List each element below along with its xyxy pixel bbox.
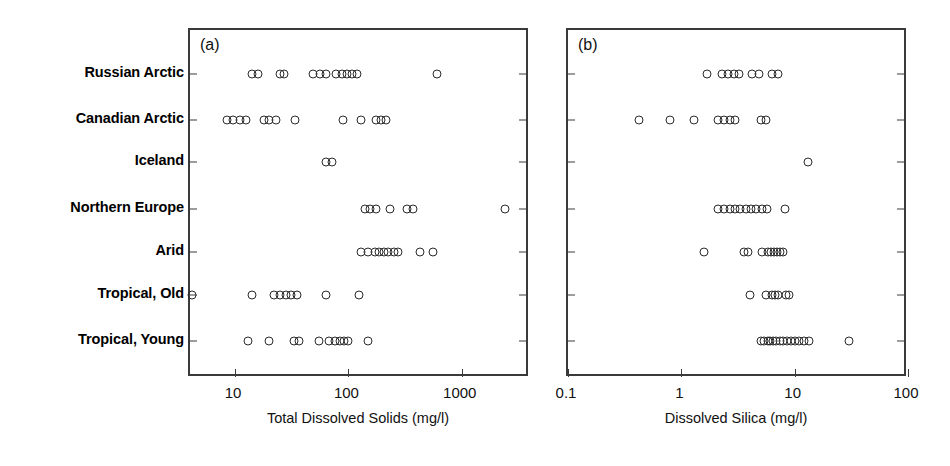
y-tick-left-6 [190, 341, 197, 342]
y-tick-right-6 [897, 341, 904, 342]
x-tick-label-1-1: 1 [675, 384, 683, 401]
data-point [355, 291, 364, 300]
y-tick-right-4 [897, 252, 904, 253]
data-point [432, 70, 441, 79]
data-point [247, 291, 256, 300]
data-point [744, 248, 753, 257]
data-point [321, 291, 330, 300]
panel-a-tag: (a) [200, 36, 220, 54]
y-tick-right-3 [897, 209, 904, 210]
category-label-iceland: Iceland [135, 152, 184, 168]
data-point [339, 116, 348, 125]
data-point [242, 116, 251, 125]
category-label-arid: Arid [155, 242, 184, 258]
data-point [371, 205, 380, 214]
data-point [500, 205, 509, 214]
data-point [292, 291, 301, 300]
category-label-tropical-young: Tropical, Young [78, 331, 184, 347]
data-point [805, 337, 814, 346]
x-tick-1-1 [681, 369, 682, 377]
data-point [364, 337, 373, 346]
y-tick-right-4 [519, 252, 526, 253]
data-point [690, 116, 699, 125]
y-tick-left-3 [568, 209, 575, 210]
y-tick-left-5 [568, 295, 575, 296]
y-tick-right-5 [897, 295, 904, 296]
data-point [188, 291, 197, 300]
y-tick-left-3 [190, 209, 197, 210]
data-point [386, 205, 395, 214]
category-label-northern-europe: Northern Europe [70, 199, 184, 215]
y-tick-left-0 [568, 74, 575, 75]
x-tick-1-3 [908, 369, 909, 377]
y-tick-left-1 [568, 120, 575, 121]
data-point [291, 116, 300, 125]
y-tick-left-2 [190, 162, 197, 163]
data-point [244, 337, 253, 346]
y-tick-right-0 [519, 74, 526, 75]
x-tick-label-1-3: 100 [893, 384, 918, 401]
y-tick-right-5 [519, 295, 526, 296]
y-tick-left-0 [190, 74, 197, 75]
panel-b-tag: (b) [578, 36, 598, 54]
data-point [762, 116, 771, 125]
y-tick-right-0 [897, 74, 904, 75]
panel-b: (b) [566, 28, 906, 376]
x-tick-0-2 [462, 369, 463, 377]
x-axis-title-b: Dissolved Silica (mg/l) [665, 410, 808, 426]
y-tick-left-1 [190, 120, 197, 121]
data-point [703, 70, 712, 79]
y-tick-right-1 [519, 120, 526, 121]
data-point [322, 70, 331, 79]
data-point [408, 205, 417, 214]
x-tick-0-1 [348, 369, 349, 377]
category-label-russian-arctic: Russian Arctic [84, 64, 184, 80]
y-tick-right-6 [519, 341, 526, 342]
data-point [254, 70, 263, 79]
data-point [295, 337, 304, 346]
data-point [429, 248, 438, 257]
data-point [780, 205, 789, 214]
x-tick-1-2 [795, 369, 796, 377]
data-point [844, 337, 853, 346]
data-point [328, 158, 337, 167]
data-point [773, 70, 782, 79]
figure-container: Russian ArcticCanadian ArcticIcelandNort… [0, 0, 950, 466]
panel-a-plot-area [190, 30, 526, 374]
category-label-tropical-old: Tropical, Old [97, 285, 184, 301]
data-point [265, 337, 274, 346]
x-tick-0-0 [235, 369, 236, 377]
y-tick-left-4 [568, 252, 575, 253]
data-point [745, 291, 754, 300]
category-label-canadian-arctic: Canadian Arctic [76, 110, 184, 126]
data-point [315, 337, 324, 346]
data-point [731, 116, 740, 125]
category-axis-labels: Russian ArcticCanadian ArcticIcelandNort… [0, 0, 184, 466]
x-tick-label-0-0: 10 [225, 384, 242, 401]
data-point [734, 70, 743, 79]
x-tick-1-0 [568, 369, 569, 377]
panel-b-plot-area [568, 30, 904, 374]
y-tick-left-2 [568, 162, 575, 163]
data-point [394, 248, 403, 257]
data-point [754, 70, 763, 79]
y-tick-left-6 [568, 341, 575, 342]
panel-a-frame [188, 28, 528, 376]
data-point [762, 205, 771, 214]
data-point [357, 116, 366, 125]
data-point [779, 248, 788, 257]
data-point [784, 291, 793, 300]
x-axis-title-a: Total Dissolved Solids (mg/l) [267, 410, 449, 426]
y-tick-right-2 [519, 162, 526, 163]
y-tick-right-1 [897, 120, 904, 121]
panel-a: (a) [188, 28, 528, 376]
data-point [382, 116, 391, 125]
y-tick-right-3 [519, 209, 526, 210]
y-tick-right-2 [897, 162, 904, 163]
y-tick-left-4 [190, 252, 197, 253]
data-point [352, 70, 361, 79]
data-point [416, 248, 425, 257]
x-tick-label-0-2: 1000 [443, 384, 476, 401]
data-point [279, 70, 288, 79]
x-tick-label-1-0: 0.1 [556, 384, 577, 401]
